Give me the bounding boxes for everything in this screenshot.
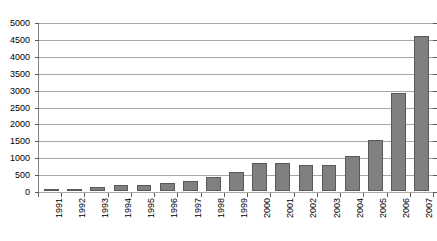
x-tick-mark xyxy=(410,193,411,197)
x-label-slot: 2000 xyxy=(248,198,271,241)
y-tick-mark xyxy=(35,57,39,58)
x-label-slot: 1998 xyxy=(201,198,224,241)
bar[interactable] xyxy=(299,165,314,191)
x-label-slot: 2005 xyxy=(363,198,386,241)
bar[interactable] xyxy=(368,140,383,191)
bar[interactable] xyxy=(44,189,59,191)
x-tick-mark xyxy=(84,193,85,197)
y-tick-mark xyxy=(35,158,39,159)
y-tick-label: 2500 xyxy=(10,103,30,112)
x-tick-mark xyxy=(340,193,341,197)
x-label-slot: 2004 xyxy=(340,198,363,241)
y-tick-mark-right xyxy=(433,40,437,41)
bar[interactable] xyxy=(67,189,82,191)
bar-slot xyxy=(86,23,109,191)
y-tick-label: 1000 xyxy=(10,154,30,163)
x-label-slot: 2002 xyxy=(294,198,317,241)
x-axis: 1991199219931994199519961997199819992000… xyxy=(39,198,433,241)
x-label-slot: 2003 xyxy=(317,198,340,241)
y-tick-label: 1500 xyxy=(10,137,30,146)
y-tick-mark xyxy=(35,175,39,176)
y-tick-mark-right xyxy=(433,158,437,159)
bar-chart: 0500100015002000250030003500400045005000… xyxy=(0,0,437,241)
bar[interactable] xyxy=(160,183,175,191)
bar-slot xyxy=(225,23,248,191)
y-tick-mark-right xyxy=(433,23,437,24)
y-axis: 0500100015002000250030003500400045005000 xyxy=(0,0,36,241)
bar[interactable] xyxy=(229,172,244,191)
y-tick-mark xyxy=(35,40,39,41)
bar[interactable] xyxy=(414,36,429,191)
y-tick-mark xyxy=(35,91,39,92)
y-tick-mark xyxy=(35,108,39,109)
y-tick-mark xyxy=(35,141,39,142)
y-tick-label: 3000 xyxy=(10,86,30,95)
y-tick-label: 3500 xyxy=(10,69,30,78)
y-tick-mark-right xyxy=(433,124,437,125)
bars-group xyxy=(40,23,433,191)
bar[interactable] xyxy=(137,185,152,191)
y-tick-label: 0 xyxy=(25,188,30,197)
y-tick-mark xyxy=(35,74,39,75)
bar-slot xyxy=(341,23,364,191)
x-tick-mark xyxy=(433,193,434,197)
bar[interactable] xyxy=(252,163,267,191)
bar-slot xyxy=(156,23,179,191)
bar[interactable] xyxy=(345,156,360,191)
bar-slot xyxy=(179,23,202,191)
x-tick-label: 2007 xyxy=(425,198,434,218)
bar-slot xyxy=(364,23,387,191)
x-label-slot: 1999 xyxy=(224,198,247,241)
bar-slot xyxy=(63,23,86,191)
x-tick-mark xyxy=(201,193,202,197)
y-tick-label: 4000 xyxy=(10,52,30,61)
bar-slot xyxy=(387,23,410,191)
y-tick-mark-right xyxy=(433,141,437,142)
x-tick-mark xyxy=(108,193,109,197)
y-tick-mark-right xyxy=(433,74,437,75)
x-label-slot: 2006 xyxy=(387,198,410,241)
bar[interactable] xyxy=(114,185,129,191)
y-tick-mark xyxy=(35,23,39,24)
bar[interactable] xyxy=(90,187,105,191)
bar-slot xyxy=(294,23,317,191)
x-tick-mark xyxy=(131,193,132,197)
y-tick-label: 5000 xyxy=(10,19,30,28)
x-label-slot: 1996 xyxy=(155,198,178,241)
y-tick-label: 2000 xyxy=(10,120,30,129)
x-tick-mark xyxy=(247,193,248,197)
y-tick-mark-right xyxy=(433,57,437,58)
x-tick-mark xyxy=(387,193,388,197)
bar-slot xyxy=(410,23,433,191)
y-tick-mark-right xyxy=(433,91,437,92)
y-tick-label: 500 xyxy=(15,171,30,180)
bar-slot xyxy=(40,23,63,191)
x-label-slot: 1997 xyxy=(178,198,201,241)
x-label-slot: 1994 xyxy=(109,198,132,241)
x-tick-mark xyxy=(294,193,295,197)
bar[interactable] xyxy=(322,165,337,191)
bar-slot xyxy=(248,23,271,191)
y-tick-mark xyxy=(35,124,39,125)
bar[interactable] xyxy=(183,181,198,191)
bar[interactable] xyxy=(206,177,221,191)
x-label-slot: 2007 xyxy=(410,198,433,241)
bar-slot xyxy=(109,23,132,191)
x-label-slot: 1993 xyxy=(85,198,108,241)
y-tick-mark-right xyxy=(433,108,437,109)
x-tick-mark xyxy=(363,193,364,197)
x-label-slot: 1992 xyxy=(62,198,85,241)
bar[interactable] xyxy=(391,93,406,191)
bar-slot xyxy=(202,23,225,191)
bar-slot xyxy=(271,23,294,191)
bar-slot xyxy=(133,23,156,191)
x-label-slot: 1995 xyxy=(132,198,155,241)
bar-slot xyxy=(318,23,341,191)
x-tick-mark xyxy=(154,193,155,197)
x-tick-mark xyxy=(224,193,225,197)
x-label-slot: 1991 xyxy=(39,198,62,241)
bar[interactable] xyxy=(275,163,290,191)
plot-area xyxy=(38,23,433,193)
x-tick-mark xyxy=(177,193,178,197)
x-tick-mark xyxy=(61,193,62,197)
